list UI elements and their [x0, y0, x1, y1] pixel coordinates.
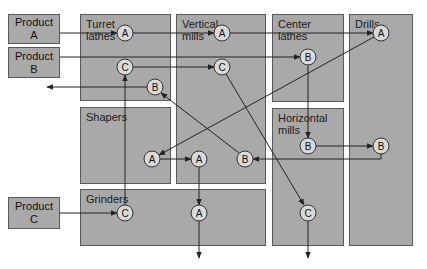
node-a-turret: A	[117, 25, 133, 41]
node-label: A	[122, 28, 129, 39]
node-c-vmill: C	[214, 59, 230, 75]
node-c-grinder: C	[117, 205, 133, 221]
node-label: B	[242, 154, 249, 165]
node-b-hmill: B	[300, 138, 316, 154]
node-label: A	[149, 154, 156, 165]
node-label: B	[305, 141, 312, 152]
node-c-turret: C	[117, 59, 133, 75]
node-a-shaper: A	[144, 151, 160, 167]
node-label: A	[378, 28, 385, 39]
flow-lines-layer: AAACCBBAABBBCAC	[0, 0, 427, 269]
flow-arrow-product-b	[253, 154, 381, 159]
node-label: A	[196, 154, 203, 165]
node-label: C	[218, 62, 225, 73]
node-label: B	[305, 52, 312, 63]
node-b-drill: B	[373, 138, 389, 154]
flow-arrow-product-a	[159, 37, 374, 155]
node-label: A	[196, 208, 203, 219]
node-label: A	[219, 28, 226, 39]
node-label: C	[121, 62, 128, 73]
node-label: C	[304, 208, 311, 219]
node-label: B	[152, 82, 159, 93]
node-label: B	[378, 141, 385, 152]
node-b-clathe: B	[300, 49, 316, 65]
node-b-vmill: B	[237, 151, 253, 167]
node-a-grinder: A	[191, 205, 207, 221]
node-a-vmill: A	[214, 25, 230, 41]
flow-arrow-product-b	[161, 93, 239, 153]
node-b-turret: B	[147, 79, 163, 95]
flow-arrow-product-c	[226, 74, 304, 205]
node-c-hmill: C	[300, 205, 316, 221]
node-label: C	[121, 208, 128, 219]
node-a-drill: A	[373, 25, 389, 41]
node-a-vmill-2: A	[191, 151, 207, 167]
